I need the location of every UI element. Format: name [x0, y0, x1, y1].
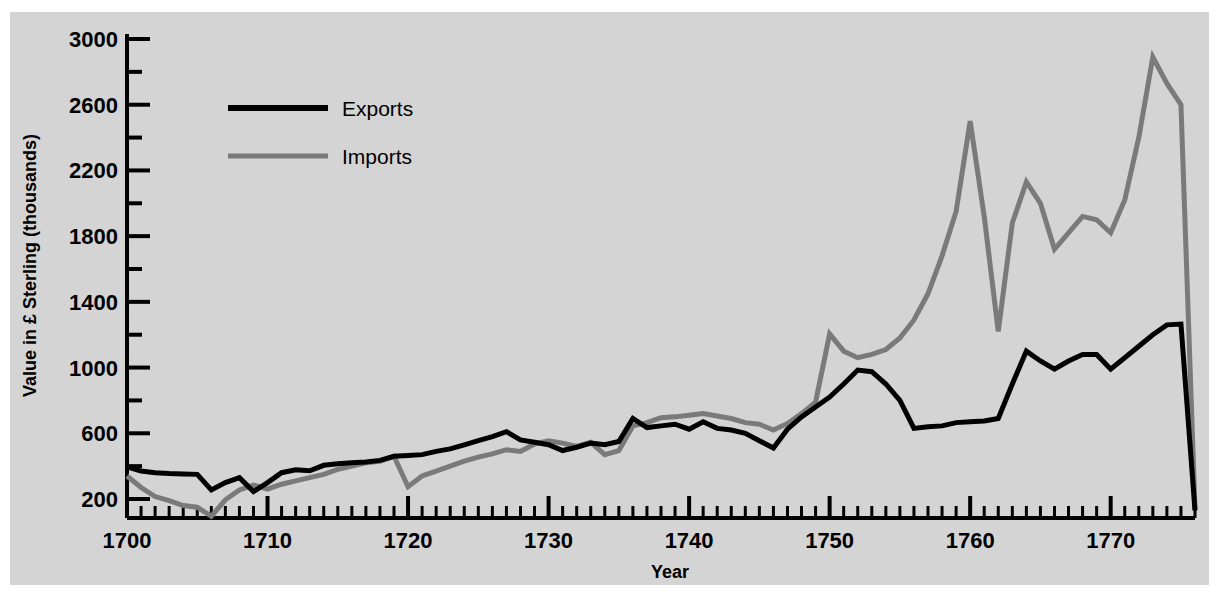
- chart-figure: 200600100014001800220026003000 170017101…: [10, 12, 1209, 585]
- y-tick-label: 2200: [69, 158, 118, 183]
- x-tick-label: 1740: [665, 528, 714, 553]
- data-series-group: [127, 57, 1195, 516]
- chart-legend: ExportsImports: [228, 97, 413, 168]
- x-tick-label: 1730: [524, 528, 573, 553]
- legend-label-exports: Exports: [342, 97, 413, 120]
- x-tick-label: 1760: [946, 528, 995, 553]
- plot-area: 200600100014001800220026003000 170017101…: [10, 12, 1209, 585]
- y-tick-label: 3000: [69, 27, 118, 52]
- x-tick-label: 1710: [243, 528, 292, 553]
- y-tick-label: 200: [81, 487, 118, 512]
- y-axis-tick-labels: 200600100014001800220026003000: [69, 27, 118, 512]
- line-chart: 200600100014001800220026003000 170017101…: [10, 12, 1209, 585]
- y-tick-label: 1800: [69, 224, 118, 249]
- y-axis-title: Value in £ Sterling (thousands): [20, 134, 40, 397]
- x-tick-label: 1720: [384, 528, 433, 553]
- series-line-imports: [127, 57, 1195, 516]
- x-tick-label: 1770: [1086, 528, 1135, 553]
- x-axis-tick-labels: 17001710172017301740175017601770: [103, 528, 1136, 553]
- y-tick-label: 1000: [69, 356, 118, 381]
- y-tick-label: 1400: [69, 290, 118, 315]
- legend-label-imports: Imports: [342, 145, 412, 168]
- x-tick-label: 1750: [805, 528, 854, 553]
- y-axis-minor-ticks: [127, 72, 142, 466]
- x-axis-title: Year: [651, 562, 689, 582]
- y-tick-label: 600: [81, 421, 118, 446]
- y-tick-label: 2600: [69, 93, 118, 118]
- x-tick-label: 1700: [103, 528, 152, 553]
